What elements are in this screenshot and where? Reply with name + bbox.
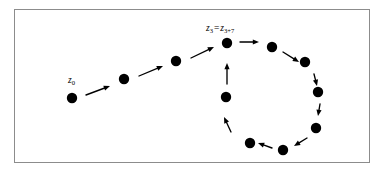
figure-root: z0 z3=z3+7 [0,0,386,176]
arrow-z3-z4-head [253,39,259,44]
orbit-point-z10-cycle [221,92,231,102]
arrow-z0-z1 [86,88,105,95]
label-z0: z0 [67,75,76,86]
arrows-group [86,39,322,148]
orbit-point-z9-cycle [245,138,255,148]
labels-group: z0 z3=z3+7 [67,23,235,86]
orbit-point-z5-cycle [300,57,310,67]
orbit-diagram-canvas: z0 z3=z3+7 [0,0,386,176]
orbit-point-z2-tail [171,56,181,66]
arrow-z1-z2 [139,68,158,76]
arrow-z7-z8 [298,138,307,143]
orbit-point-z1-tail [119,74,129,84]
orbit-point-z0-tail [67,93,77,103]
arrow-z8-z9 [263,145,272,148]
arrow-z6-z7-head [316,109,321,116]
arrow-z8-z9-head [258,143,265,148]
arrow-z10-z3-head [224,63,229,69]
orbit-point-z4-cycle [267,42,277,52]
arrow-z0-z1-head [103,86,110,91]
label-z3-equals-z3plus7: z3=z3+7 [205,23,235,34]
arrow-z9-z10 [226,122,231,132]
arrow-z5-z6-head [313,79,318,86]
arrow-z1-z2-head [156,66,163,71]
arrow-z4-z5 [283,52,295,59]
orbit-point-z7-cycle [311,123,321,133]
arrow-z2-z3 [191,49,209,58]
orbit-point-z3-cycle [222,38,232,48]
orbit-point-z6-cycle [313,87,323,97]
orbit-point-z8-cycle [278,145,288,155]
